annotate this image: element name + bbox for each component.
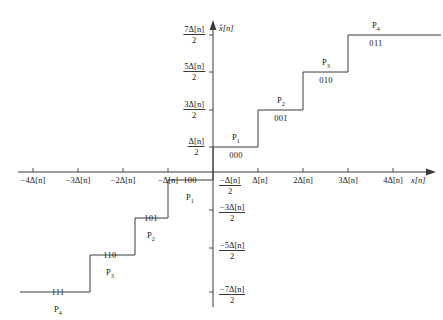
x-tick-label-pos1: Δ[n] — [252, 176, 267, 185]
step-level-label-p4-negative: P4 — [54, 305, 62, 316]
quantizer-characteristic-figure: 7Δ[n] 2 5Δ[n] 2 3Δ[n] 2 Δ[n] 2 −Δ[n] 2 −… — [0, 0, 443, 320]
x-tick-label-neg1: −Δ[n] — [158, 176, 178, 185]
p2-subscript: 2 — [282, 100, 285, 107]
y-tick-label-neg-7d2: −7Δ[n] 2 — [219, 285, 245, 304]
y-tick-label-d2: Δ[n] 2 — [188, 137, 205, 156]
step-code-label-011: 011 — [369, 39, 382, 48]
step-level-label-p1-positive: P1 — [232, 133, 240, 144]
x-tick-label-neg2: −2Δ[n] — [111, 176, 135, 185]
step-code-label-010: 010 — [319, 76, 333, 85]
x-tick-label-pos4: 4Δ[n] — [383, 176, 403, 185]
p4-subscript: 4 — [377, 25, 380, 32]
p3-subscript-neg: 3 — [111, 272, 114, 279]
step-code-label-000: 000 — [229, 151, 243, 160]
p1-subscript-neg: 1 — [191, 197, 194, 204]
step-code-label-100: 100 — [183, 176, 197, 185]
step-level-label-p2-positive: P2 — [277, 96, 285, 107]
y-axis-label: x̂[n] — [219, 24, 234, 33]
step-code-label-110: 110 — [103, 251, 116, 260]
p4-subscript-neg: 4 — [59, 309, 62, 316]
x-axis-label: x[n] — [411, 176, 426, 185]
step-level-label-p4-positive: P4 — [372, 21, 380, 32]
y-tick-label-3d2: 3Δ[n] 2 — [183, 100, 205, 119]
step-code-label-101: 101 — [144, 214, 158, 223]
step-level-label-p3-negative: P3 — [106, 268, 114, 279]
y-tick-label-5d2: 5Δ[n] 2 — [183, 62, 205, 81]
y-tick-label-neg-3d2: −3Δ[n] 2 — [219, 203, 245, 222]
y-tick-label-neg-5d2: −5Δ[n] 2 — [219, 241, 245, 260]
x-tick-label-neg3: −3Δ[n] — [66, 176, 90, 185]
x-tick-label-pos2: 2Δ[n] — [293, 176, 313, 185]
y-tick-label-neg-d2: −Δ[n] 2 — [219, 176, 241, 195]
y-tick-label-7d2: 7Δ[n] 2 — [183, 25, 205, 44]
step-code-label-111: 111 — [51, 288, 64, 297]
p3-subscript: 3 — [327, 62, 330, 69]
plot-canvas — [0, 0, 443, 320]
p2-subscript-neg: 2 — [152, 235, 155, 242]
step-level-label-p1-negative: P1 — [186, 193, 194, 204]
step-code-label-001: 001 — [274, 114, 288, 123]
x-tick-label-neg4: −4Δ[n] — [21, 176, 45, 185]
x-tick-label-pos3: 3Δ[n] — [338, 176, 358, 185]
step-level-label-p3-positive: P3 — [322, 58, 330, 69]
p1-subscript: 1 — [237, 137, 240, 144]
step-level-label-p2-negative: P2 — [147, 231, 155, 242]
